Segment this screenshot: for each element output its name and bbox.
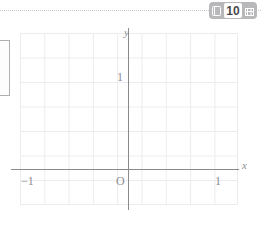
x-axis-label: x (242, 160, 247, 171)
score-badge: 10 (209, 2, 257, 19)
y-tick-label-1: 1 (117, 71, 123, 83)
page-root: 10 y x 1 O −1 1 (0, 0, 261, 229)
y-axis (128, 28, 129, 210)
x-axis (11, 169, 239, 170)
building-icon (243, 3, 256, 18)
x-tick-label-1: 1 (215, 175, 221, 187)
graph-grid-bottom-edge (20, 204, 238, 205)
origin-label: O (116, 175, 125, 187)
graph-grid-right-edge (237, 33, 238, 205)
badge-count: 10 (224, 3, 242, 18)
left-callout-box (0, 40, 10, 96)
graph-gridlines (20, 33, 238, 205)
coordinate-graph: y x 1 O −1 1 (20, 33, 238, 205)
y-axis-label: y (124, 27, 129, 38)
book-icon (210, 3, 223, 18)
x-tick-label-neg1: −1 (21, 175, 34, 187)
